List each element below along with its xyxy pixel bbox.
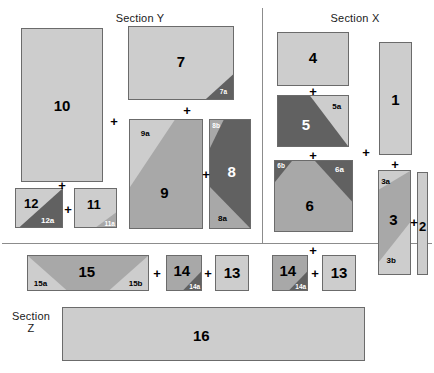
operator-op-4-5: + <box>309 85 317 98</box>
operator-op-14-13: + <box>204 267 212 280</box>
block-4[interactable] <box>277 32 349 86</box>
operator-op-3-2: + <box>410 216 418 229</box>
operator-op-7-9: + <box>183 104 191 117</box>
block-8-regions <box>210 120 250 228</box>
block-11[interactable] <box>74 188 117 228</box>
block-10[interactable] <box>21 28 103 182</box>
region-7a <box>206 75 233 99</box>
block-13[interactable] <box>322 255 356 291</box>
block-14-regions <box>273 256 307 290</box>
block-8[interactable] <box>209 119 251 229</box>
operator-op-1-3: + <box>391 158 399 171</box>
block-12[interactable] <box>15 188 63 228</box>
operator-op-10-12: + <box>58 179 66 192</box>
region-15a <box>28 256 66 290</box>
operator-op-x-col: + <box>362 146 370 159</box>
section-label-z: Section Z <box>0 310 71 334</box>
region-11a <box>96 213 116 227</box>
block-9-regions <box>130 120 202 228</box>
block-5-regions <box>278 96 348 146</box>
divider-horizontal-mid <box>2 243 432 244</box>
region-14a <box>183 272 201 290</box>
block-1[interactable] <box>379 42 412 155</box>
block-11-regions <box>75 189 116 227</box>
region-6b <box>275 161 292 182</box>
diagram-canvas: Section YSection XSection Z101212a1111a7… <box>0 0 434 373</box>
block-9[interactable] <box>129 119 203 229</box>
operator-op-9-8: + <box>202 168 210 181</box>
region-6a <box>315 161 352 202</box>
block-5[interactable] <box>277 95 349 147</box>
block-6[interactable] <box>274 160 353 232</box>
block-15[interactable] <box>27 255 149 291</box>
region-14a <box>289 272 307 290</box>
block-14[interactable] <box>166 255 202 291</box>
operator-op-10-col: + <box>110 115 118 128</box>
region-8b <box>210 120 224 148</box>
region-9a <box>130 120 175 187</box>
operator-op-15-14: + <box>153 267 161 280</box>
operator-op-6-14: + <box>309 244 317 257</box>
block-7[interactable] <box>128 26 234 100</box>
block-13[interactable] <box>215 255 249 291</box>
block-3-regions <box>379 171 410 274</box>
region-12a <box>20 189 62 227</box>
block-16[interactable] <box>62 307 365 361</box>
section-label-y: Section Y <box>100 12 180 24</box>
divider-vertical-top <box>262 8 263 243</box>
operator-op-5-6: + <box>309 149 317 162</box>
region-15b <box>110 256 148 290</box>
region-3band <box>379 171 410 262</box>
block-2[interactable] <box>417 172 428 275</box>
block-7-regions <box>129 27 233 99</box>
block-12-regions <box>16 189 62 227</box>
region-5a <box>310 96 348 146</box>
operator-op-12-11: + <box>64 203 72 216</box>
block-14[interactable] <box>272 255 308 291</box>
block-15-regions <box>28 256 148 290</box>
block-6-regions <box>275 161 352 231</box>
region-8a <box>210 187 250 228</box>
operator-op-14r-13r: + <box>311 267 319 280</box>
block-3[interactable] <box>378 170 411 275</box>
block-14-regions <box>167 256 201 290</box>
section-label-x: Section X <box>315 12 395 24</box>
